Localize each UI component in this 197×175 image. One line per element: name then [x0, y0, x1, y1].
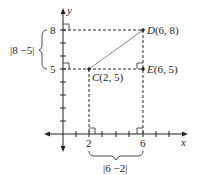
point-e — [141, 67, 145, 71]
label-d-coords: (6, 8) — [155, 24, 179, 37]
svg-text:D(6, 8): D(6, 8) — [146, 24, 179, 37]
x-axis-arrow-left-icon — [44, 132, 50, 137]
horizontal-distance-label: |6 −2| — [103, 162, 127, 174]
x-tick-6: 6 — [140, 137, 146, 149]
label-c-coords: (2, 5) — [99, 71, 123, 84]
svg-text:E(6, 5): E(6, 5) — [146, 63, 178, 76]
label-c: C(2, 5) — [92, 71, 124, 84]
x-axis-label: x — [180, 136, 186, 148]
point-d — [141, 28, 145, 32]
svg-text:C(2, 5): C(2, 5) — [92, 71, 124, 84]
vertical-brace-icon — [39, 30, 47, 69]
x-axis — [44, 131, 188, 137]
label-e-coords: (6, 5) — [154, 63, 178, 76]
horizontal-brace-icon — [89, 151, 143, 160]
vertical-distance-label: |8 −5| — [10, 44, 34, 56]
y-axis-arrow-down-icon — [61, 146, 66, 152]
point-c — [87, 67, 91, 71]
y-axis-label: y — [66, 4, 72, 16]
label-e: E(6, 5) — [146, 63, 178, 76]
y-tick-5: 5 — [50, 63, 56, 75]
y-tick-8: 8 — [50, 24, 56, 36]
label-d-name: D — [146, 24, 155, 36]
coordinate-diagram: y x 8 5 2 6 C(2, 5) D(6, 8) E(6, 5) |8 −… — [0, 0, 197, 175]
segment-cd — [89, 30, 143, 69]
x-tick-2: 2 — [86, 137, 92, 149]
y-axis-arrow-up-icon — [61, 8, 66, 14]
label-d: D(6, 8) — [146, 24, 179, 37]
